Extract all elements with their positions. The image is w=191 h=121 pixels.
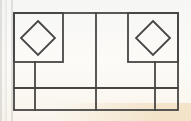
right-diamond [136,21,170,55]
scanned-figure-page [0,0,191,121]
left-diamond [21,21,55,55]
diagram-svg [0,0,191,121]
